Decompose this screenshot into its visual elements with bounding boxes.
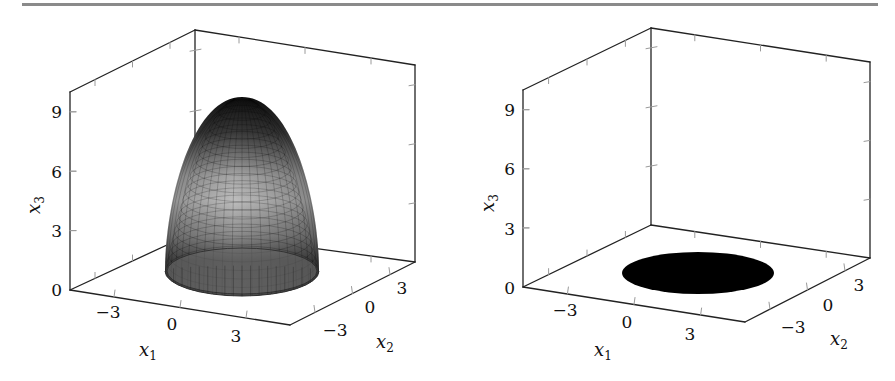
z-tick-label: 6	[504, 159, 515, 179]
x2-tick-mark	[769, 302, 770, 309]
chart-paraboloid: 0369−303−303x1x2x3	[23, 30, 415, 363]
x1-tick-mark	[246, 311, 247, 318]
z-tick-label: 9	[51, 102, 62, 122]
x1-tick-mark	[114, 290, 115, 297]
x2-tick-mark	[807, 283, 808, 290]
x1-tick-label: 0	[622, 312, 633, 332]
chart-disk: 0369−303−303x1x2x3	[477, 28, 870, 363]
x3-axis-label: x3	[477, 194, 501, 212]
z-tick-label: 0	[51, 280, 62, 300]
z-tick-label: 3	[51, 221, 62, 241]
z-tick-mark-right	[864, 199, 870, 200]
x2-tick-label: 3	[397, 278, 408, 298]
z-tick-label: 6	[51, 162, 62, 182]
plots-canvas: 0369−303−303x1x2x3 0369−303−303x1x2x3	[0, 0, 895, 381]
x2-tick-label: 0	[823, 295, 834, 315]
x1-axis-label: x1	[594, 339, 612, 363]
z-tick-label: 0	[504, 278, 515, 298]
z-tick-mark-right	[864, 82, 870, 83]
x1-tick-mark	[180, 301, 181, 308]
z-tick-mark-right	[409, 85, 415, 86]
x1-tick-mark	[701, 308, 702, 315]
x1-tick-label: −3	[552, 300, 577, 320]
x1-tick-mark	[634, 298, 635, 305]
x2-tick-label: 3	[854, 275, 865, 295]
x2-tick-label: −3	[780, 317, 805, 337]
x3-axis-label: x3	[23, 196, 47, 214]
x1-axis-label: x1	[139, 339, 157, 363]
x2-tick-label: 0	[365, 297, 376, 317]
figure: 0369−303−303x1x2x3 0369−303−303x1x2x3	[0, 0, 895, 381]
x2-tick-mark	[389, 268, 390, 275]
z-tick-label: 3	[504, 219, 515, 239]
x2-tick-mark	[352, 287, 353, 294]
x1-tick-label: 3	[685, 324, 696, 344]
z-tick-mark-right	[864, 140, 870, 141]
x1-tick-mark	[567, 287, 568, 294]
top-rule	[22, 3, 878, 6]
x2-axis-label: x2	[376, 331, 394, 355]
z-tick-mark-right	[409, 203, 415, 204]
x1-tick-label: −3	[95, 302, 120, 322]
z-tick-mark-right	[409, 144, 415, 145]
x1-tick-label: 3	[231, 326, 242, 346]
x2-tick-label: −3	[322, 320, 347, 340]
x2-axis-label: x2	[830, 328, 848, 352]
z-tick-label: 9	[504, 100, 515, 120]
x2-tick-mark	[844, 264, 845, 271]
x1-tick-label: 0	[167, 314, 178, 334]
disk-surface	[622, 252, 774, 294]
x2-tick-mark	[314, 305, 315, 312]
